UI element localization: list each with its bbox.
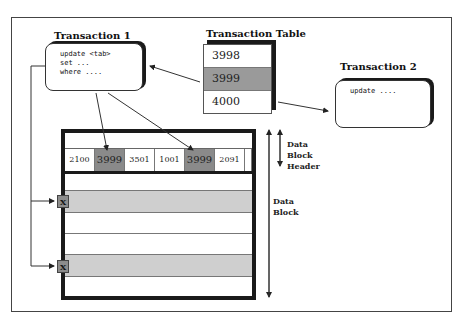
connector-arrows — [0, 0, 464, 326]
arrow-tx1-to-row1 — [31, 66, 54, 201]
arrow-table-to-tx2 — [278, 102, 328, 111]
arrow-tx1-to-header-cell2 — [108, 93, 193, 150]
arrow-tx1-to-header-cell1 — [96, 93, 107, 150]
arrow-table-to-tx1 — [150, 66, 200, 82]
